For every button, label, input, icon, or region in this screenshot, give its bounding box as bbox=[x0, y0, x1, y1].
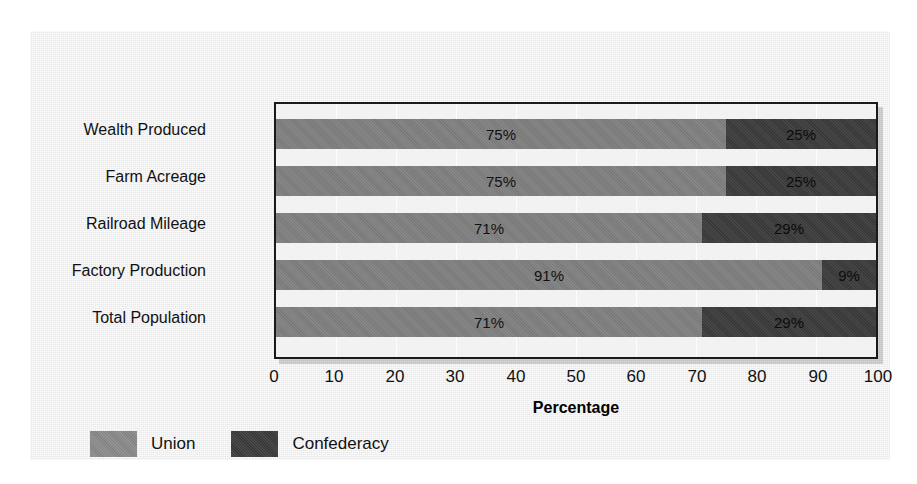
bar-value-label: 71% bbox=[474, 220, 504, 237]
bar-segment-confederacy: 29% bbox=[702, 213, 876, 243]
category-label-railroad-mileage: Railroad Mileage bbox=[0, 215, 206, 233]
bar-segment-confederacy: 25% bbox=[726, 119, 876, 149]
x-tick-label: 70 bbox=[677, 367, 717, 387]
chart-legend: Union Confederacy bbox=[90, 431, 425, 457]
legend-item-union[interactable]: Union bbox=[90, 431, 195, 457]
bar-segment-confederacy: 25% bbox=[726, 166, 876, 196]
chart-screenshot: Wealth Produced Farm Acreage Railroad Mi… bbox=[0, 0, 917, 484]
x-tick-label: 40 bbox=[496, 367, 536, 387]
bar-value-label: 71% bbox=[474, 314, 504, 331]
plot-area: 75% 25% 75% 25% bbox=[274, 102, 878, 359]
bar-value-label: 29% bbox=[774, 220, 804, 237]
bar-segment-union: 71% bbox=[276, 307, 702, 337]
bar-segment-union: 75% bbox=[276, 119, 726, 149]
confederacy-swatch-icon bbox=[231, 431, 278, 457]
x-tick-label: 80 bbox=[737, 367, 777, 387]
bar-segment-union: 91% bbox=[276, 260, 822, 290]
category-label-total-population: Total Population bbox=[0, 309, 206, 327]
x-tick-label: 20 bbox=[375, 367, 415, 387]
bar-segment-confederacy: 9% bbox=[822, 260, 876, 290]
bar-value-label: 75% bbox=[486, 126, 516, 143]
x-tick-label: 50 bbox=[556, 367, 596, 387]
category-label-factory-production: Factory Production bbox=[0, 262, 206, 280]
bar-value-label: 29% bbox=[774, 314, 804, 331]
bar-segment-union: 71% bbox=[276, 213, 702, 243]
bar-row: 71% 29% bbox=[276, 213, 876, 243]
bar-row: 75% 25% bbox=[276, 166, 876, 196]
union-swatch-icon bbox=[90, 431, 137, 457]
legend-label: Confederacy bbox=[292, 434, 388, 454]
bar-row: 91% 9% bbox=[276, 260, 876, 290]
bar-row: 75% 25% bbox=[276, 119, 876, 149]
bar-value-label: 91% bbox=[534, 267, 564, 284]
x-axis-title: Percentage bbox=[274, 399, 878, 417]
x-tick-label: 10 bbox=[314, 367, 354, 387]
bar-value-label: 75% bbox=[486, 173, 516, 190]
plot-inner: 75% 25% 75% 25% bbox=[276, 104, 876, 357]
legend-label: Union bbox=[151, 434, 195, 454]
figure-panel: Wealth Produced Farm Acreage Railroad Mi… bbox=[30, 31, 890, 460]
bar-value-label: 25% bbox=[786, 126, 816, 143]
category-label-wealth-produced: Wealth Produced bbox=[0, 121, 206, 139]
legend-item-confederacy[interactable]: Confederacy bbox=[231, 431, 388, 457]
bar-value-label: 25% bbox=[786, 173, 816, 190]
bar-value-label: 9% bbox=[838, 267, 860, 284]
bar-row: 71% 29% bbox=[276, 307, 876, 337]
category-label-farm-acreage: Farm Acreage bbox=[0, 168, 206, 186]
x-tick-label: 0 bbox=[254, 367, 294, 387]
x-tick-label: 30 bbox=[435, 367, 475, 387]
x-tick-label: 100 bbox=[858, 367, 898, 387]
bar-segment-union: 75% bbox=[276, 166, 726, 196]
x-tick-label: 60 bbox=[616, 367, 656, 387]
x-tick-label: 90 bbox=[798, 367, 838, 387]
bar-segment-confederacy: 29% bbox=[702, 307, 876, 337]
